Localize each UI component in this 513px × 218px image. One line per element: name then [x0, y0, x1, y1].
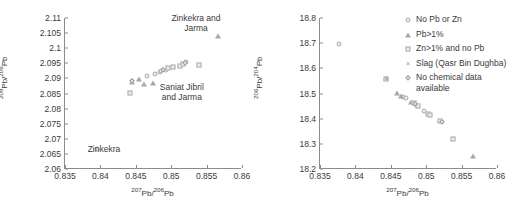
x-tick-mark	[462, 165, 463, 168]
marker-diamond-icon	[440, 119, 446, 125]
left-y-axis-title: 208Pb/206Pb	[0, 98, 9, 99]
x-tick-mark	[136, 165, 137, 168]
x-tick-mark	[65, 165, 66, 168]
y-tick-mark	[65, 78, 68, 79]
plot-annotation: Zinkekra andJarma	[171, 12, 220, 33]
x-tick-mark	[171, 165, 172, 168]
marker-square-icon	[196, 63, 201, 68]
marker-triangle-icon	[141, 81, 147, 86]
x-tick-mark	[355, 165, 356, 168]
y-tick-label: 2.095	[40, 58, 61, 68]
left-scatter-panel: 2.062.0652.072.0752.082.0852.092.0952.12…	[0, 0, 257, 218]
y-tick-mark	[320, 93, 323, 94]
y-tick-mark	[320, 118, 323, 119]
y-tick-label: 18.7	[299, 38, 316, 48]
legend-swatch	[403, 29, 414, 40]
legend-item: No chemical data available	[403, 72, 511, 93]
plot-annotation: Zinkekra	[88, 144, 121, 155]
y-tick-mark	[65, 138, 68, 139]
legend-item: No Pb or Zn	[403, 14, 511, 25]
y-tick-mark	[320, 68, 323, 69]
marker-square-icon	[171, 65, 176, 70]
marker-square-icon	[128, 90, 133, 95]
x-tick-label: 0.845	[125, 171, 146, 181]
x-tick-label: 0.86	[234, 171, 251, 181]
legend-item-label: Zn>1% and no Pb	[414, 43, 484, 54]
y-tick-mark	[65, 18, 68, 19]
y-tick-label: 2.1	[49, 43, 61, 53]
y-tick-mark	[320, 43, 323, 44]
y-tick-mark	[65, 93, 68, 94]
marker-circle-icon	[145, 74, 150, 79]
y-tick-label: 2.07	[44, 134, 61, 144]
legend-item: Pb>1%	[403, 29, 511, 40]
legend-item-label: No chemical data available	[414, 72, 511, 93]
x-tick-label: 0.845	[380, 171, 401, 181]
y-tick-label: 2.065	[40, 149, 61, 159]
marker-triangle-icon	[150, 81, 156, 86]
marker-cross-icon: ×	[384, 76, 390, 82]
y-tick-mark	[320, 143, 323, 144]
legend-swatch	[403, 14, 414, 25]
y-tick-label: 18.5	[299, 89, 316, 99]
y-tick-mark	[65, 33, 68, 34]
x-tick-label: 0.86	[489, 171, 506, 181]
legend-item: ×Slag (Qasr Bin Dughba)	[403, 58, 511, 69]
y-tick-mark	[320, 18, 323, 19]
x-tick-label: 0.835	[309, 171, 330, 181]
legend-swatch	[403, 43, 414, 54]
marker-cross-icon: ×	[405, 61, 411, 67]
marker-square-icon	[406, 47, 411, 52]
marker-circle-icon	[337, 41, 342, 46]
x-tick-label: 0.84	[347, 171, 364, 181]
y-tick-label: 2.11	[45, 13, 61, 23]
right-x-axis-title: 207Pb/206Pb	[386, 189, 428, 198]
x-tick-label: 0.85	[163, 171, 180, 181]
left-plot-area: 2.062.0652.072.0752.082.0852.092.0952.12…	[64, 18, 241, 169]
marker-diamond-icon	[405, 75, 411, 81]
y-tick-label: 2.085	[40, 89, 61, 99]
legend-item: Zn>1% and no Pb	[403, 43, 511, 54]
legend-swatch: ×	[403, 58, 414, 69]
lead-isotope-figure: 2.062.0652.072.0752.082.0852.092.0952.12…	[0, 0, 513, 218]
x-tick-label: 0.855	[451, 171, 472, 181]
right-y-axis-title: 206Pb/204Pb	[255, 98, 264, 99]
x-tick-label: 0.85	[418, 171, 435, 181]
x-tick-mark	[207, 165, 208, 168]
y-tick-mark	[65, 108, 68, 109]
legend-item-label: Slag (Qasr Bin Dughba)	[414, 58, 506, 69]
marker-triangle-icon	[405, 32, 411, 37]
x-tick-mark	[426, 165, 427, 168]
x-tick-mark	[391, 165, 392, 168]
y-tick-mark	[65, 153, 68, 154]
left-x-axis-title: 207Pb/206Pb	[131, 189, 173, 198]
y-tick-mark	[65, 123, 68, 124]
marker-triangle-icon	[470, 153, 476, 158]
x-tick-mark	[242, 165, 243, 168]
y-tick-label: 2.09	[44, 73, 61, 83]
marker-circle-icon	[406, 18, 411, 23]
y-tick-label: 2.08	[44, 104, 61, 114]
y-tick-mark	[65, 63, 68, 64]
y-tick-label: 18.8	[299, 13, 316, 23]
right-scatter-panel: 18.218.318.418.518.618.718.80.8350.840.8…	[255, 0, 513, 218]
x-tick-mark	[100, 165, 101, 168]
x-tick-label: 0.84	[92, 171, 109, 181]
y-tick-label: 18.4	[299, 114, 316, 124]
marker-triangle-icon	[215, 33, 221, 38]
legend-item-label: Pb>1%	[414, 29, 444, 40]
x-tick-label: 0.855	[196, 171, 217, 181]
plot-annotation: Saniat Jibriland Jarma	[160, 81, 204, 102]
x-tick-label: 0.835	[54, 171, 75, 181]
marker-square-icon	[428, 112, 433, 117]
legend-item-label: No Pb or Zn	[414, 14, 462, 25]
legend: No Pb or ZnPb>1%Zn>1% and no Pb×Slag (Qa…	[403, 14, 511, 97]
x-tick-mark	[497, 165, 498, 168]
y-tick-label: 2.075	[40, 119, 61, 129]
y-tick-label: 18.3	[299, 139, 316, 149]
marker-square-icon	[451, 136, 456, 141]
y-tick-mark	[65, 48, 68, 49]
x-tick-mark	[320, 165, 321, 168]
y-tick-label: 2.105	[40, 28, 61, 38]
y-tick-mark	[320, 169, 323, 170]
